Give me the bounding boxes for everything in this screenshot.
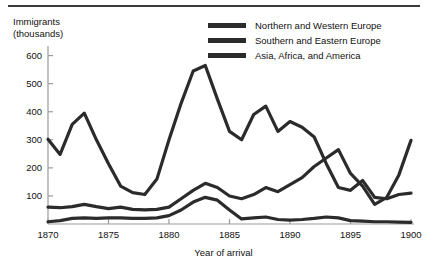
plot-area [0,0,425,267]
x-tick-label: 1895 [329,229,373,240]
y-tick-label: 300 [8,134,42,145]
y-tick-label: 200 [8,162,42,173]
x-axis-title-text: Year of arrival [172,247,252,258]
x-axis-title: Year of arrival [0,247,425,258]
x-tick-label: 1880 [147,229,191,240]
x-tick-label: 1885 [208,229,252,240]
y-tick-label: 100 [8,190,42,201]
x-tick-label: 1870 [26,229,70,240]
x-tick-label: 1900 [389,229,425,240]
y-tick-label: 400 [8,106,42,117]
chart-figure: Immigrants (thousands) Northern and West… [0,0,425,267]
y-tick-label: 600 [8,50,42,61]
x-tick-label: 1875 [87,229,131,240]
y-tick-label: 500 [8,78,42,89]
series-line-3 [48,197,411,222]
x-tick-label: 1890 [268,229,312,240]
